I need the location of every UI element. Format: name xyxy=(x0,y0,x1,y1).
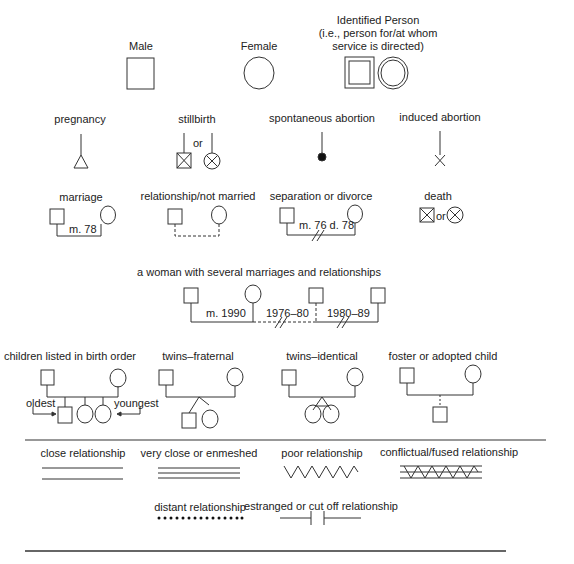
twins-fraternal-diagram xyxy=(159,368,243,428)
estranged-relationship-line xyxy=(280,511,361,525)
stillbirth-or: or xyxy=(193,137,203,149)
female-label: Female xyxy=(241,40,278,53)
identified-person-label: Identified Person xyxy=(337,14,420,27)
death-label: death xyxy=(424,190,452,203)
twins-identical-diagram xyxy=(282,368,363,423)
divorce-dates: m. 76 d. 78 xyxy=(299,219,354,231)
identified-person-label-line2: (i.e., person for/at whom xyxy=(319,27,438,40)
genogram-legend-graphics xyxy=(0,0,574,564)
foster-adopted-diagram xyxy=(400,365,481,422)
relationship-not-married-symbol xyxy=(168,206,227,236)
death-or: or xyxy=(436,210,446,222)
marriage-label: marriage xyxy=(59,191,102,204)
foster-adopted-label: foster or adopted child xyxy=(389,350,498,363)
spontaneous-abortion-label: spontaneous abortion xyxy=(269,112,375,125)
relationship-1980-89: 1980–89 xyxy=(327,307,370,319)
pregnancy-label: pregnancy xyxy=(54,113,105,126)
relationship-label: relationship/not married xyxy=(141,190,256,203)
birth-order-diagram xyxy=(33,369,140,423)
birth-order-label: children listed in birth order xyxy=(4,350,136,363)
marriage-1990-date: m. 1990 xyxy=(206,307,246,319)
distant-relationship-label: distant relationship xyxy=(154,501,246,514)
estranged-relationship-label: estranged or cut off relationship xyxy=(244,500,398,513)
stillbirth-label: stillbirth xyxy=(178,113,215,126)
divorce-label: separation or divorce xyxy=(270,190,373,203)
close-relationship-label: close relationship xyxy=(41,447,126,460)
conflictual-relationship-label: conflictual/fused relationship xyxy=(380,446,518,459)
female-symbol xyxy=(244,57,274,89)
oldest-label: oldest xyxy=(26,397,55,409)
poor-relationship-label: poor relationship xyxy=(281,447,362,460)
relationship-1976-80: 1976–80 xyxy=(266,307,309,319)
very-close-line xyxy=(158,468,240,478)
very-close-label: very close or enmeshed xyxy=(141,447,258,460)
induced-abortion-symbol xyxy=(435,131,445,166)
male-symbol xyxy=(127,58,154,89)
several-marriages-label: a woman with several marriages and relat… xyxy=(137,266,381,279)
spontaneous-abortion-symbol xyxy=(318,132,326,161)
distant-relationship-line[interactable] xyxy=(158,517,244,520)
pregnancy-symbol xyxy=(74,134,88,168)
close-relationship-line xyxy=(42,468,123,479)
marriage-date: m. 78 xyxy=(69,223,97,235)
conflictual-relationship-line xyxy=(400,466,482,478)
youngest-label: youngest xyxy=(114,397,159,409)
twins-fraternal-label: twins–fraternal xyxy=(162,350,234,363)
poor-relationship-line xyxy=(284,466,358,478)
identified-person-symbols xyxy=(345,57,408,89)
male-label: Male xyxy=(129,40,153,53)
identified-person-label-line3: service is directed) xyxy=(332,40,424,53)
induced-abortion-label: induced abortion xyxy=(399,111,480,124)
twins-identical-label: twins–identical xyxy=(286,350,358,363)
